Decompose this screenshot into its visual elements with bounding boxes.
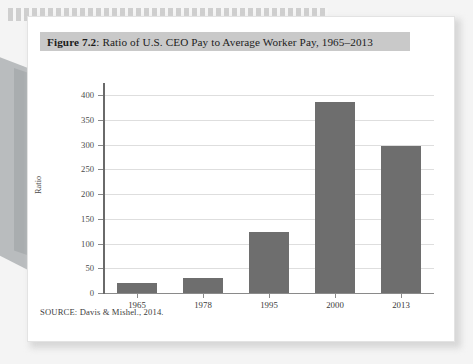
y-axis-label: 300 [54,140,94,150]
y-axis-label: 50 [54,263,94,273]
y-axis-label: 400 [54,90,94,100]
y-axis-label: 0 [54,288,94,298]
y-axis-tick [98,219,103,220]
figure-title: Figure 7.2: Ratio of U.S. CEO Pay to Ave… [47,36,373,48]
y-axis-tick [98,169,103,170]
x-axis-tick [137,293,138,298]
y-axis-label: 250 [54,164,94,174]
bar-series [104,95,434,293]
x-axis-tick [401,293,402,298]
x-axis-tick [203,293,204,298]
bar-chart: Ratio 050100150200250300350400 196519781… [42,61,442,311]
y-axis-tick [98,194,103,195]
bar-slot [170,95,236,293]
y-axis-label: 350 [54,115,94,125]
x-axis-tick [335,293,336,298]
bar [117,283,157,293]
y-axis-tick [98,120,103,121]
y-axis-tick [98,95,103,96]
y-axis-tick [98,293,103,294]
x-axis-tick [269,293,270,298]
y-axis-tick [98,244,103,245]
y-axis-tick [98,145,103,146]
bar-slot [236,95,302,293]
y-axis-label: 150 [54,214,94,224]
source-note: SOURCE: Davis & Mishel., 2014. [40,307,164,317]
bar [183,278,223,293]
x-axis-label: 1978 [168,300,238,310]
figure-number: Figure 7.2 [47,36,96,48]
x-axis-label: 2013 [366,300,436,310]
bar [315,102,355,293]
figure-title-band: Figure 7.2: Ratio of U.S. CEO Pay to Ave… [40,32,410,51]
bar [249,232,289,293]
figure-page: Figure 7.2: Ratio of U.S. CEO Pay to Ave… [27,16,455,342]
bar-slot [368,95,434,293]
bar [381,146,421,293]
y-axis-title: Ratio [34,176,43,194]
y-axis-label: 100 [54,239,94,249]
x-axis-label: 2000 [300,300,370,310]
figure-caption: Ratio of U.S. CEO Pay to Average Worker … [100,36,373,48]
y-axis-label: 200 [54,189,94,199]
x-axis-label: 1995 [234,300,304,310]
bar-slot [302,95,368,293]
y-axis-tick [98,268,103,269]
bar-slot [104,95,170,293]
